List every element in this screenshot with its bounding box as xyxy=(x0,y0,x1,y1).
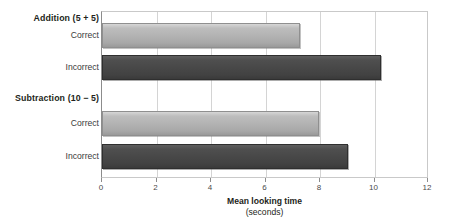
bar-label-addition-incorrect: Incorrect xyxy=(0,62,99,72)
bar-label-addition-correct: Correct xyxy=(0,30,99,40)
tick-mark-6 xyxy=(265,178,266,182)
tick-mark-4 xyxy=(210,178,211,182)
plot-area xyxy=(101,11,428,178)
bar-addition-correct xyxy=(102,23,300,48)
tick-mark-2 xyxy=(156,178,157,182)
tick-label-8: 8 xyxy=(304,183,334,192)
tick-label-4: 4 xyxy=(195,183,225,192)
bar-subtraction-incorrect xyxy=(102,144,348,169)
tick-mark-0 xyxy=(101,178,102,182)
group-label-subtraction: Subtraction (10 − 5) xyxy=(0,93,99,103)
bar-label-subtraction-incorrect: Incorrect xyxy=(0,151,99,161)
chart-figure: Addition (5 + 5) Correct Incorrect Subtr… xyxy=(0,0,456,224)
tick-label-10: 10 xyxy=(359,183,389,192)
group-label-addition: Addition (5 + 5) xyxy=(0,13,99,23)
tick-mark-10 xyxy=(374,178,375,182)
tick-label-2: 2 xyxy=(141,183,171,192)
tick-label-6: 6 xyxy=(250,183,280,192)
tick-label-0: 0 xyxy=(86,183,116,192)
x-axis-title-main: Mean looking time xyxy=(101,196,428,207)
bar-label-subtraction-correct: Correct xyxy=(0,118,99,128)
bar-subtraction-correct xyxy=(102,111,319,136)
gridline-10 xyxy=(375,12,376,177)
tick-mark-12 xyxy=(427,178,428,182)
x-axis-title: Mean looking time (seconds) xyxy=(101,196,428,218)
tick-mark-8 xyxy=(319,178,320,182)
x-axis-title-unit: (seconds) xyxy=(101,207,428,218)
tick-label-12: 12 xyxy=(412,183,442,192)
bar-addition-incorrect xyxy=(102,55,381,80)
